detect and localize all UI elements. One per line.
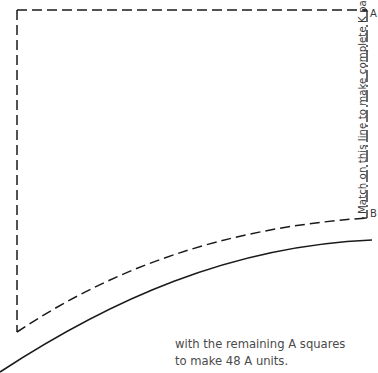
quilt-pattern-template: [0, 0, 378, 373]
caption-line-2: to make 48 A units.: [175, 353, 345, 370]
corner-label-a: A: [370, 8, 377, 19]
corner-label-b: B: [370, 208, 377, 219]
instruction-caption: with the remaining A squares to make 48 …: [175, 336, 345, 370]
caption-line-1: with the remaining A squares: [175, 336, 345, 353]
match-line-label: Match on this line to make complete K pa…: [357, 0, 368, 214]
